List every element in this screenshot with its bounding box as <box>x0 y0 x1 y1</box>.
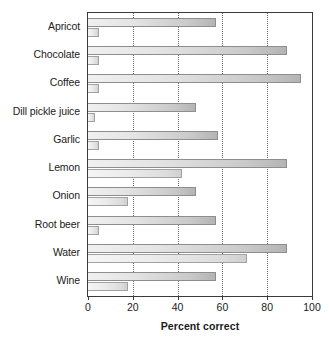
bar <box>88 74 301 83</box>
x-axis-tick-label: 0 <box>85 301 91 314</box>
bar-group <box>88 13 312 41</box>
x-axis-tick-mark <box>133 296 134 300</box>
bar <box>88 28 99 37</box>
x-axis-tick-mark <box>178 296 179 300</box>
bar-group <box>88 41 312 69</box>
bar-groups <box>88 13 312 296</box>
x-axis-title: Percent correct <box>87 320 313 332</box>
y-axis-tick-label: Lemon <box>0 153 84 181</box>
bar <box>88 282 128 291</box>
bar <box>88 226 99 235</box>
bar <box>88 84 99 93</box>
x-axis-tick-label: 40 <box>172 301 184 314</box>
bar-group <box>88 183 312 211</box>
bar-group <box>88 70 312 98</box>
y-axis-tick-label: Water <box>0 238 84 266</box>
bar <box>88 244 287 253</box>
y-axis-tick-label: Coffee <box>0 69 84 97</box>
bar <box>88 159 287 168</box>
y-axis-tick-label: Chocolate <box>0 40 84 68</box>
x-axis-tick-label: 20 <box>127 301 139 314</box>
bar-group <box>88 239 312 267</box>
x-axis-tick-label: 100 <box>303 301 321 314</box>
bar <box>88 197 128 206</box>
bar-group <box>88 211 312 239</box>
bar <box>88 272 216 281</box>
bar <box>88 113 95 122</box>
x-axis-tick-mark <box>88 296 89 300</box>
x-axis-tick-label: 60 <box>217 301 229 314</box>
x-axis-tick-mark <box>222 296 223 300</box>
bar <box>88 103 196 112</box>
bar <box>88 141 99 150</box>
y-axis-tick-label: Dill pickle juice <box>0 97 84 125</box>
x-axis-tick-mark <box>312 296 313 300</box>
plot-area <box>87 12 313 297</box>
y-axis-tick-label: Apricot <box>0 12 84 40</box>
bar <box>88 254 247 263</box>
bar <box>88 216 216 225</box>
bar-group <box>88 268 312 296</box>
bar <box>88 187 196 196</box>
y-axis-tick-label: Onion <box>0 182 84 210</box>
x-axis-tick-labels: 020406080100 <box>87 301 313 315</box>
y-axis-category-labels: Apricot Chocolate Coffee Dill pickle jui… <box>0 12 84 295</box>
bar <box>88 46 287 55</box>
y-axis-tick-label: Root beer <box>0 210 84 238</box>
bar-group <box>88 98 312 126</box>
bar <box>88 169 182 178</box>
y-axis-tick-label: Wine <box>0 267 84 295</box>
bar-group <box>88 154 312 182</box>
bar <box>88 18 216 27</box>
y-axis-tick-label: Garlic <box>0 125 84 153</box>
x-axis-tick-mark <box>267 296 268 300</box>
bar <box>88 56 99 65</box>
bar <box>88 131 218 140</box>
x-axis-tick-label: 80 <box>261 301 273 314</box>
bar-group <box>88 126 312 154</box>
bar-chart: Apricot Chocolate Coffee Dill pickle jui… <box>0 0 329 343</box>
